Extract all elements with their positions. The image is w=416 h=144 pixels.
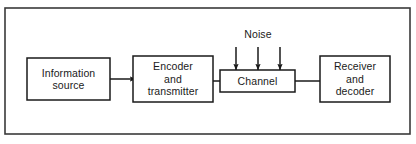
block-encoder-and-transmitter — [133, 56, 213, 102]
block-rect-group — [27, 56, 390, 102]
block-diagram-graphics — [0, 0, 416, 144]
diagram-canvas: InformationsourceEncoderandtransmitterCh… — [0, 0, 416, 144]
block-channel — [220, 70, 295, 92]
block-receiver-and-decoder — [320, 56, 390, 102]
block-information-source — [27, 58, 110, 100]
